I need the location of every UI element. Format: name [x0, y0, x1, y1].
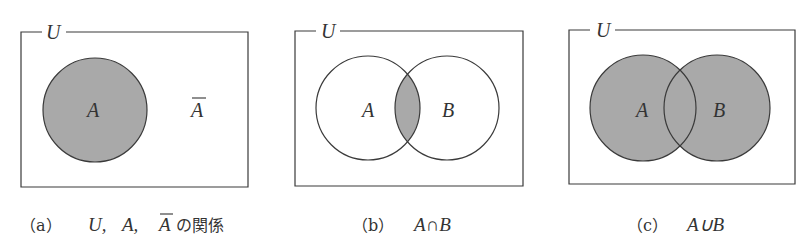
- svg-text:（a）: （a）: [20, 216, 62, 235]
- svg-text:（b）: （b）: [352, 216, 394, 235]
- set-a-label-panel-a: A: [85, 99, 100, 121]
- universe-label-b: U: [321, 20, 337, 42]
- svg-text:A,: A,: [120, 214, 138, 235]
- panel-b: U A B （b） A∩B: [295, 20, 523, 235]
- caption-b: （b） A∩B: [352, 214, 451, 235]
- set-a-label-panel-c: A: [634, 99, 649, 121]
- svg-text:A∪B: A∪B: [685, 214, 725, 235]
- universe-label-a: U: [46, 21, 62, 43]
- complement-label-a: A: [189, 98, 206, 121]
- set-b-label-panel-b: B: [442, 99, 454, 121]
- set-b-label-panel-c: B: [713, 99, 725, 121]
- panel-a: U A A （a） U, A, A の関係: [20, 21, 248, 235]
- venn-diagrams-figure: U A A （a） U, A, A の関係 U A B （b） A∩B: [0, 0, 808, 252]
- set-a-label-panel-b: A: [360, 99, 375, 121]
- panel-c: U A B （c） A∪B: [569, 19, 795, 235]
- svg-text:（c）: （c）: [627, 216, 668, 235]
- caption-a: （a） U, A, A の関係: [20, 214, 224, 235]
- svg-text:の関係: の関係: [176, 216, 224, 235]
- universe-label-c: U: [596, 19, 612, 41]
- svg-text:A: A: [189, 99, 204, 121]
- svg-text:A: A: [157, 214, 171, 235]
- caption-c: （c） A∪B: [627, 214, 725, 235]
- svg-text:A∩B: A∩B: [412, 214, 451, 235]
- svg-text:U,: U,: [88, 214, 106, 235]
